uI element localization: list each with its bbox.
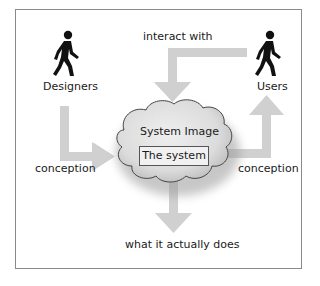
- arrow-users-to-system: [154, 48, 247, 102]
- designer-conception-label: conception: [35, 162, 96, 175]
- user-conception-label: conception: [238, 162, 299, 175]
- designers-walking-person-icon: [50, 30, 82, 78]
- the-system-box: The system: [139, 146, 209, 166]
- what-it-actually-does-label: what it actually does: [125, 238, 240, 251]
- users-label: Users: [257, 80, 288, 93]
- designers-label: Designers: [43, 80, 98, 93]
- users-walking-person-icon: [252, 30, 284, 78]
- interact-with-label: interact with: [143, 30, 213, 43]
- system-image-label: System Image: [140, 125, 219, 138]
